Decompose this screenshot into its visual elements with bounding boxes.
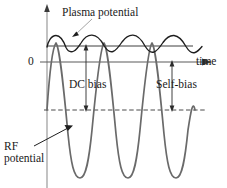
self-bias-label: Self-bias — [156, 78, 197, 90]
time-axis-label: time — [196, 55, 216, 67]
plasma-potential-diagram: Plasma potential time 0 DC bias Self-bia… — [0, 0, 227, 188]
self-bias-arrowhead-top — [170, 60, 175, 67]
y-axis-arrowhead — [44, 4, 50, 12]
zero-axis-label: 0 — [28, 55, 34, 67]
plasma-potential-curve — [47, 35, 202, 53]
rf-potential-label: RFpotential — [4, 140, 44, 164]
axes-group — [40, 4, 212, 188]
rf-potential-label-line2: potential — [4, 152, 44, 164]
plasma-potential-leader — [72, 19, 92, 37]
self-bias-arrowhead-bottom — [170, 106, 175, 113]
dc-bias-arrowhead-top — [84, 44, 89, 51]
plasma-potential-leader-line — [76, 19, 92, 34]
dc-bias-arrowhead-bottom — [84, 106, 89, 113]
rf-potential-label-line1: RF — [4, 140, 18, 152]
rf-potential-leader-arrowhead — [65, 125, 74, 131]
plasma-potential-label: Plasma potential — [62, 6, 138, 18]
dc-bias-label: DC bias — [69, 78, 106, 90]
